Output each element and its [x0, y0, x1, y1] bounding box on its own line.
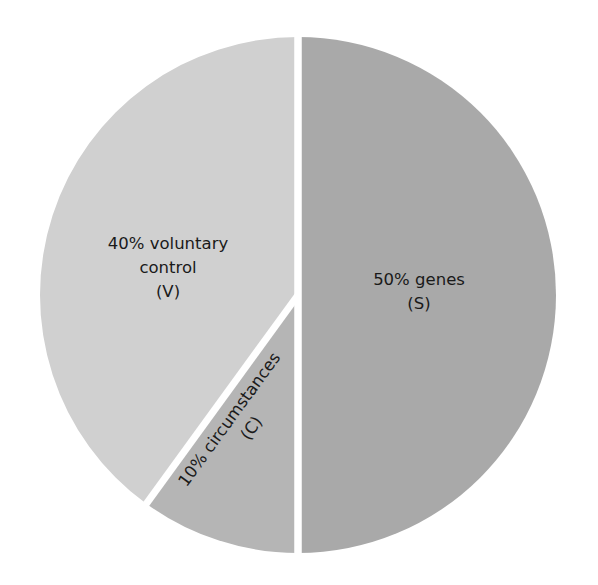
pie-chart: 50% genes (S) 40% voluntary control (V) …	[0, 0, 598, 585]
label-voluntary-line3: (V)	[156, 282, 180, 301]
label-genes-line2: (S)	[407, 294, 430, 313]
label-voluntary-line2: control	[139, 258, 196, 277]
label-genes-line1: 50% genes	[373, 270, 465, 289]
label-voluntary-line1: 40% voluntary	[108, 234, 229, 253]
